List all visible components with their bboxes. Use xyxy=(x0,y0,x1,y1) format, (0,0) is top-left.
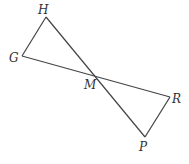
label-g: G xyxy=(9,51,19,65)
segment-hp xyxy=(46,17,145,137)
segment-rp xyxy=(145,97,170,137)
geometry-diagram: H G M R P xyxy=(0,0,189,164)
label-p: P xyxy=(138,140,148,154)
label-h: H xyxy=(37,3,49,17)
label-r: R xyxy=(171,92,181,106)
segment-gh xyxy=(22,17,46,56)
label-m: M xyxy=(83,78,97,92)
